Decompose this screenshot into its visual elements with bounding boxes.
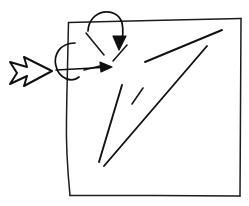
panel-bottom-edge (70, 196, 240, 197)
sketch-figure: Hand-drawn impact diagram A hand-drawn q… (0, 0, 249, 206)
hand-drawn-diagram-canvas (0, 0, 249, 206)
paper-background (0, 0, 249, 206)
panel-right-edge (240, 19, 241, 197)
